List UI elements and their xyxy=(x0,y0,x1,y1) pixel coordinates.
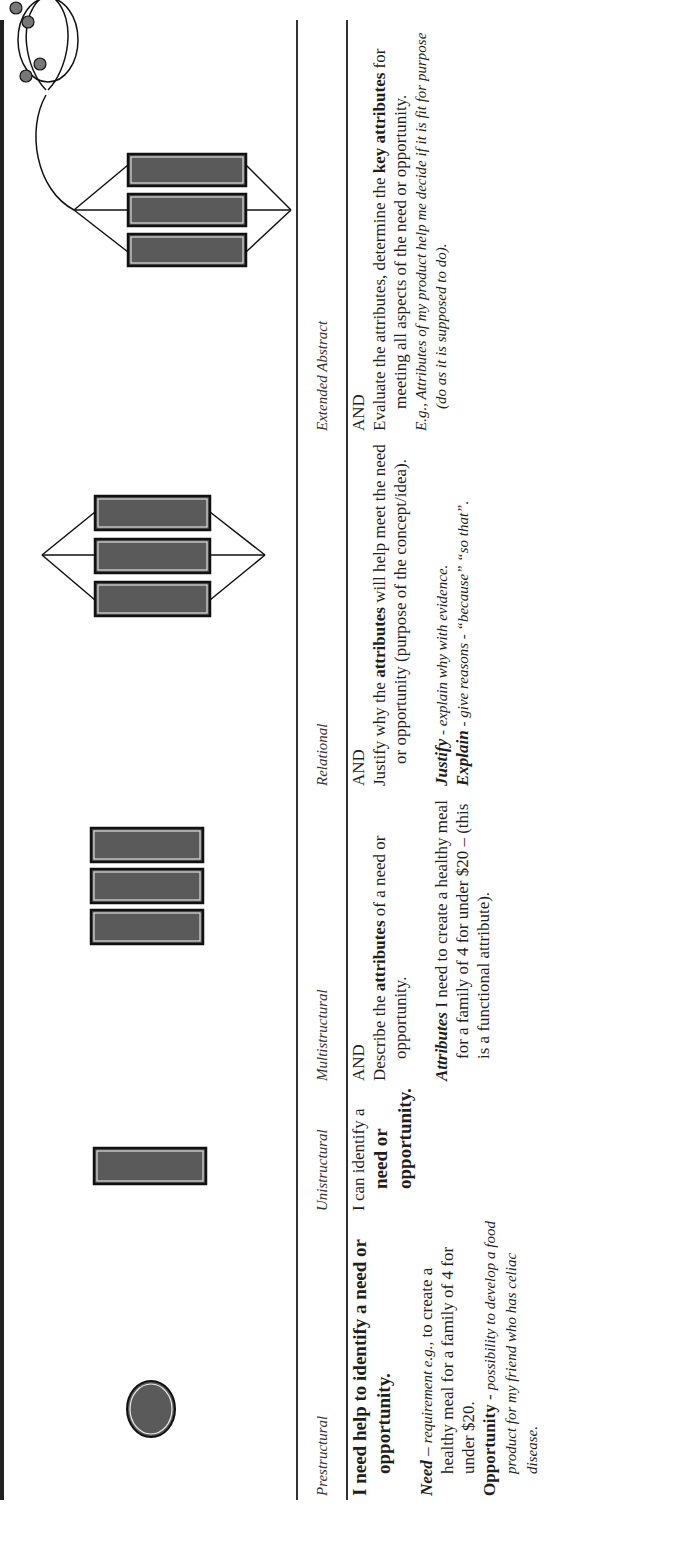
example: E.g., Attributes of my product help me d… xyxy=(411,26,451,431)
opportunity-definition: Opportunity - possibility to develop a f… xyxy=(479,1221,542,1496)
column-header: Unistructural xyxy=(300,1085,344,1215)
single-bar-icon xyxy=(90,1140,210,1190)
column-multistructural: Multistructural AND Describe the attribu… xyxy=(300,790,494,1085)
statement: I need help to identify a need or opport… xyxy=(348,1221,396,1496)
column-header: Extended Abstract xyxy=(300,20,344,435)
column-unistructural: Unistructural I can identify a need or o… xyxy=(300,1085,417,1215)
column-header: Relational xyxy=(300,435,344,790)
explain-definition: Explain - give reasons - “because” “so t… xyxy=(452,441,473,786)
column-header: Prestructural xyxy=(300,1215,344,1500)
statement: I can identify a need or opportunity. xyxy=(348,1091,417,1211)
column-prestructural: Prestructural I need help to identify a … xyxy=(300,1215,542,1500)
need-definition: Need – requirement e.g., to create a hea… xyxy=(416,1221,479,1496)
and-label: AND xyxy=(348,796,369,1081)
linked-bars-with-network-icon xyxy=(6,0,296,290)
linked-bars-icon xyxy=(40,490,270,620)
three-bars-icon xyxy=(85,820,210,950)
statement: Justify why the attributes will help mee… xyxy=(369,441,411,786)
justify-definition: Justify - explain why with evidence. xyxy=(431,441,452,786)
column-relational: Relational AND Justify why the attribute… xyxy=(300,435,473,790)
column-header: Multistructural xyxy=(300,790,344,1085)
solo-rubric-page: Prestructural I need help to identify a … xyxy=(0,0,673,1560)
single-circle-icon xyxy=(120,1378,182,1440)
statement: Describe the attributes of a need or opp… xyxy=(369,796,411,1081)
page-border xyxy=(0,20,4,1500)
table-top-rule xyxy=(296,20,298,1500)
example: Attributes I need to create a healthy me… xyxy=(431,796,494,1081)
column-extended-abstract: Extended Abstract AND Evaluate the attri… xyxy=(300,20,451,435)
statement: Evaluate the attributes, determine the k… xyxy=(369,26,411,431)
and-label: AND xyxy=(348,26,369,431)
and-label: AND xyxy=(348,441,369,786)
